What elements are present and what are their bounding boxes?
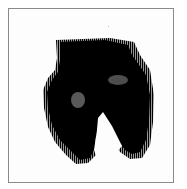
speck xyxy=(108,26,109,27)
light-patch-right xyxy=(108,75,128,85)
halftone-blob xyxy=(0,0,187,189)
light-patch-top xyxy=(83,49,97,67)
light-patch-mid xyxy=(71,92,85,108)
